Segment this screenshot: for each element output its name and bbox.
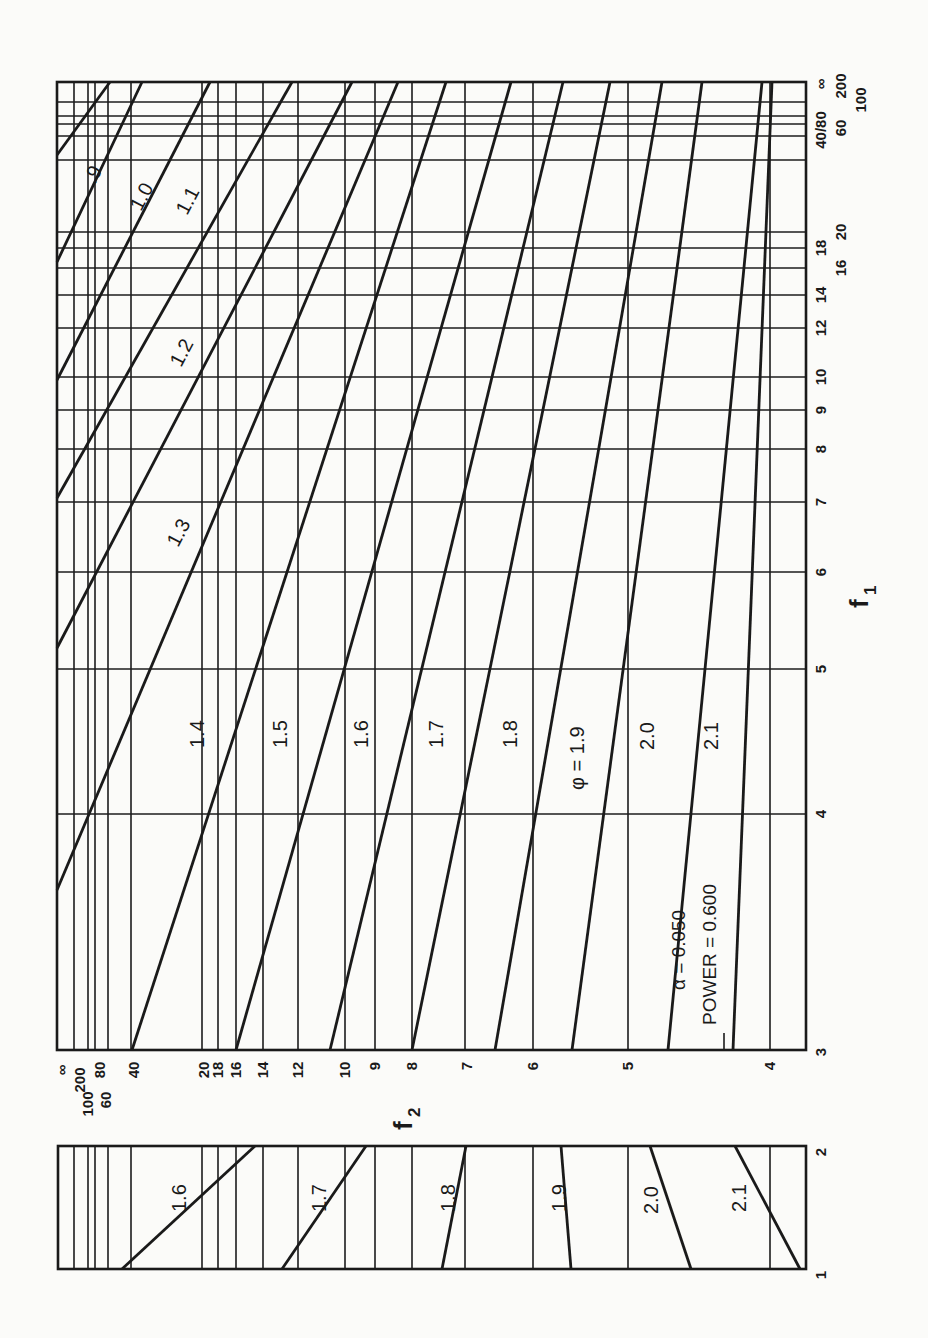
inset-f1-ticks: 2 1 <box>812 1148 829 1279</box>
power-chart: 345678910121416182040/8060∞200100 ∞20080… <box>0 0 928 1338</box>
inset-label-1.9: 1.9 <box>548 1184 570 1212</box>
f1-tick-∞: ∞ <box>812 78 829 89</box>
power-text: POWER = 0.600 <box>699 884 720 1025</box>
f2-axis-title: f 2 <box>388 1108 424 1130</box>
f1-tick-9: 9 <box>812 406 829 414</box>
curve-label-1.8: 1.8 <box>499 720 521 748</box>
main-curve-labels: .9 1.0 1.1 1.2 1.3 1.4 1.5 1.6 1.7 1.8 φ… <box>79 162 722 790</box>
f1-tick-60: 60 <box>832 120 849 137</box>
f2-tick-9: 9 <box>366 1062 383 1070</box>
phi-curve-1.7 <box>330 82 563 1050</box>
curve-label-1.0: 1.0 <box>125 179 157 214</box>
f1-tick-8: 8 <box>812 445 829 453</box>
curve-label-1.6: 1.6 <box>350 720 372 748</box>
f1-tick-200: 200 <box>832 73 849 98</box>
f2-tick-80: 80 <box>91 1062 108 1079</box>
f2-tick-40: 40 <box>125 1062 142 1079</box>
f1-tick-20: 20 <box>832 224 849 241</box>
f1-title-sub: 1 <box>861 586 880 595</box>
phi-curve-edge <box>733 82 772 1050</box>
f2-tick-6: 6 <box>524 1062 541 1070</box>
inset-tick-2: 2 <box>812 1148 829 1156</box>
f2-tick-200: 200 <box>71 1067 88 1092</box>
phi-curve-.9 <box>57 82 110 155</box>
f2-tick-7: 7 <box>458 1062 475 1070</box>
f2-tick-8: 8 <box>403 1062 420 1070</box>
f1-tick-100: 100 <box>852 87 869 112</box>
f2-tick-5: 5 <box>619 1062 636 1070</box>
curve-label-1.3: 1.3 <box>162 515 194 550</box>
phi-curve-1.5 <box>132 82 446 1050</box>
f2-tick-10: 10 <box>336 1062 353 1079</box>
curve-label-1.1: 1.1 <box>171 183 203 218</box>
inset-label-1.8: 1.8 <box>437 1184 459 1212</box>
f1-tick-40/80: 40/80 <box>812 111 829 149</box>
f2-tick-12: 12 <box>289 1062 306 1079</box>
phi-curve-1.2 <box>57 82 292 498</box>
curve-label-1.4: 1.4 <box>186 720 208 748</box>
curve-label-1.5: 1.5 <box>269 720 291 748</box>
f1-axis-ticks: 345678910121416182040/8060∞200100 <box>812 73 869 1056</box>
main-phi-curves <box>57 82 772 1050</box>
f2-title-sub: 2 <box>405 1108 424 1117</box>
curve-label-1.7: 1.7 <box>425 720 447 748</box>
f1-tick-16: 16 <box>832 260 849 277</box>
f2-tick-4: 4 <box>761 1061 778 1070</box>
f1-tick-18: 18 <box>812 240 829 257</box>
f1-tick-14: 14 <box>812 286 829 303</box>
f1-tick-5: 5 <box>812 665 829 673</box>
f2-tick-60: 60 <box>97 1092 114 1109</box>
f2-tick-∞: ∞ <box>53 1064 70 1075</box>
f1-axis-title: f 1 <box>844 586 880 608</box>
inset-phi-curves <box>122 1146 800 1269</box>
f1-tick-6: 6 <box>812 568 829 576</box>
f1-tick-4: 4 <box>812 809 829 818</box>
f2-tick-100: 100 <box>79 1091 96 1116</box>
inset-label-2.0: 2.0 <box>640 1186 662 1214</box>
phi-curve-1.8 <box>412 82 610 1050</box>
inset-label-2.1: 2.1 <box>728 1184 750 1212</box>
alpha-text: α = 0.050 <box>668 910 689 990</box>
inset-label-1.7: 1.7 <box>308 1184 330 1212</box>
f2-tick-16: 16 <box>227 1062 244 1079</box>
f1-tick-7: 7 <box>812 498 829 506</box>
f1-tick-3: 3 <box>812 1048 829 1056</box>
power-annotation: POWER = 0.600 <box>699 884 720 1025</box>
main-plot-frame <box>57 82 806 1050</box>
f1-tick-12: 12 <box>812 320 829 337</box>
phi-curve-1.1 <box>57 82 210 380</box>
main-grid <box>57 82 806 1050</box>
inset-label-1.6: 1.6 <box>168 1184 190 1212</box>
f1-tick-10: 10 <box>812 369 829 386</box>
curve-label-2.0: 2.0 <box>636 722 658 750</box>
curve-label-2.1: 2.1 <box>700 722 722 750</box>
f2-tick-18: 18 <box>209 1062 226 1079</box>
alpha-annotation: α = 0.050 <box>668 910 689 990</box>
f1-title-text: f <box>844 599 874 608</box>
f2-tick-14: 14 <box>254 1061 271 1078</box>
inset-tick-1: 1 <box>812 1271 829 1279</box>
f2-title-text: f <box>388 1121 418 1130</box>
curve-label-phi-1.9: φ = 1.9 <box>566 726 588 790</box>
curve-label-1.2: 1.2 <box>165 335 197 370</box>
